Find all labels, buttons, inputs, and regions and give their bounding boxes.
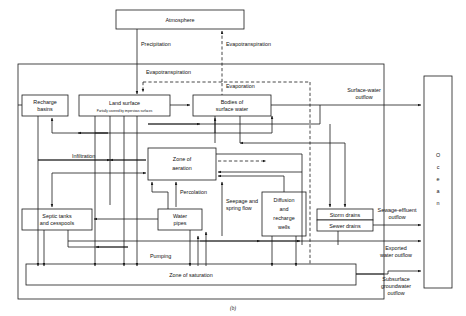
label-infiltration: Infiltration: [72, 153, 95, 159]
box-diffusion-line1: Diffusion: [274, 197, 295, 203]
box-septic-line1: Septic tanks: [42, 213, 72, 219]
label-subsurface-line3: outflow: [387, 290, 404, 296]
box-diffusion-line2: and: [280, 206, 289, 212]
label-percolation: Percolation: [180, 189, 207, 195]
box-ocean-letter-4: n: [437, 200, 440, 206]
label-evapotranspiration-top: Evapotranspiration: [226, 41, 271, 47]
box-zone-saturation-label: Zone of saturation: [169, 272, 212, 278]
box-land-surface-label: Land surface: [109, 100, 140, 106]
box-bodies-line1: Bodies of: [221, 99, 244, 105]
figure-canvas: Atmosphere Precipitation Evapotranspirat…: [0, 0, 466, 316]
box-ocean-letter-2: e: [437, 176, 440, 182]
label-subsurface-line2: groundwater: [381, 283, 411, 289]
box-storm-drains-label: Storm drains: [330, 212, 361, 218]
label-exported-water-line1: Exported: [385, 245, 407, 251]
box-ocean[interactable]: [424, 76, 452, 288]
box-zone-aeration-line1: Zone of: [173, 156, 192, 162]
label-precipitation: Precipitation: [141, 41, 171, 47]
box-zone-of-aeration[interactable]: [148, 148, 216, 180]
label-surface-water-outflow-line1: Surface-water: [347, 87, 381, 93]
box-septic-line2: and cesspools: [40, 220, 75, 226]
box-atmosphere-label: Atmosphere: [165, 17, 194, 23]
label-exported-water-line2: water outflow: [379, 252, 412, 258]
box-recharge-basins-line2: basins: [37, 106, 53, 112]
box-water-pipes-line2: pipes: [174, 220, 187, 226]
box-diffusion-line3: recharge: [273, 215, 294, 221]
label-evapotranspiration-inner: Evapotranspiration: [146, 69, 191, 75]
box-recharge-basins-line1: Recharge: [33, 99, 56, 105]
label-evaporation: Evaporation: [226, 83, 255, 89]
label-surface-water-outflow-line2: outflow: [355, 94, 372, 100]
box-ocean-letter-3: a: [437, 188, 440, 194]
box-sewer-drains-label: Sewer drains: [329, 223, 361, 229]
label-sewage-effluent-line1: Sewage-effluent: [378, 207, 417, 213]
label-pumping: Pumping: [150, 253, 171, 259]
box-zone-aeration-line2: aeration: [172, 165, 191, 171]
label-seepage-line1: Seepage and: [226, 198, 258, 204]
box-water-pipes-line1: Water: [173, 213, 187, 219]
box-land-surface-subtitle: Partially covered by impervious surfaces: [97, 109, 153, 113]
label-sewage-effluent-line2: outflow: [388, 214, 405, 220]
figure-caption: (b): [230, 305, 236, 312]
box-bodies-line2: surface water: [216, 106, 249, 112]
label-subsurface-line1: Subsurface: [382, 276, 409, 282]
box-ocean-letter-1: c: [437, 164, 440, 170]
label-seepage-line2: spring flow: [226, 205, 252, 211]
box-diffusion-line4: wells: [277, 224, 290, 230]
box-ocean-letter-0: O: [436, 152, 440, 158]
